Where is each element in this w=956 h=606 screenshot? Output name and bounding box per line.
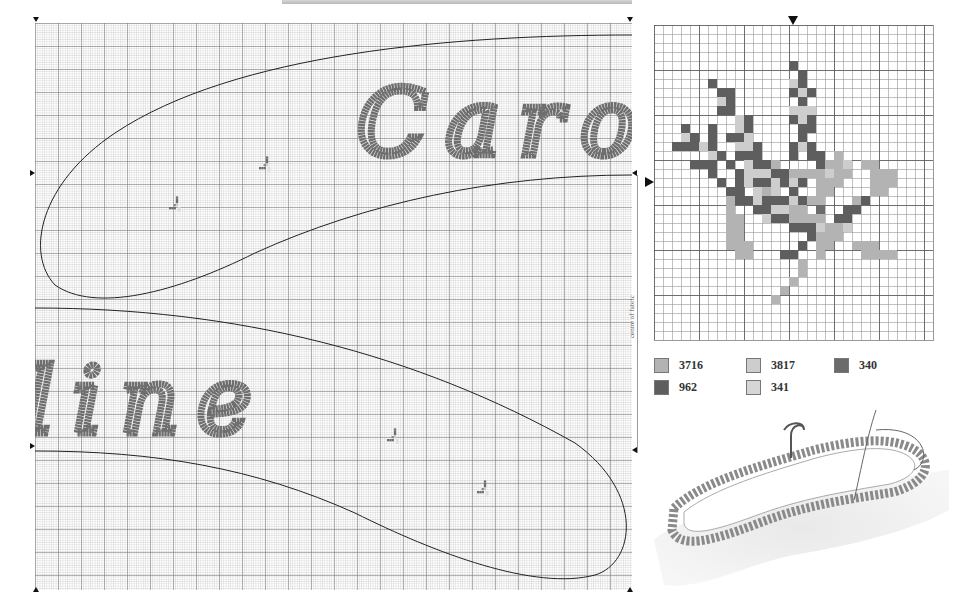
- stitch-cell: [780, 169, 789, 178]
- thread-code: 3716: [679, 358, 703, 373]
- stitch-cell: [744, 151, 753, 160]
- stitch-cell: [798, 142, 807, 151]
- stitch-cell: [888, 169, 897, 178]
- stitch-cell: [798, 79, 807, 88]
- stitch-cell: [807, 115, 816, 124]
- stitch-cell: [825, 223, 834, 232]
- stitch-cell: [807, 151, 816, 160]
- stitch-cell: [735, 169, 744, 178]
- stitch-cell: [789, 223, 798, 232]
- stitch-cell: [789, 106, 798, 115]
- stitch-cell: [771, 187, 780, 196]
- stitch-cell: [852, 196, 861, 205]
- stitch-cell: [726, 88, 735, 97]
- stitch-cell: [717, 151, 726, 160]
- stitch-cell: [789, 250, 798, 259]
- stitch-cell: [861, 160, 870, 169]
- stitch-cell: [798, 124, 807, 133]
- stitch-cell: [735, 115, 744, 124]
- stitch-cell: [870, 187, 879, 196]
- stitch-cell: [690, 133, 699, 142]
- stitch-cell: [744, 133, 753, 142]
- stitch-cell: [870, 241, 879, 250]
- stitch-cell: [789, 79, 798, 88]
- stitch-cell: [735, 232, 744, 241]
- centre-line: [637, 175, 638, 453]
- stitch-cell: [825, 160, 834, 169]
- stitch-cell: [798, 70, 807, 79]
- stitch-cell: [717, 106, 726, 115]
- stitch-cell: [834, 214, 843, 223]
- stitch-cell: [798, 178, 807, 187]
- stitch-cell: [735, 151, 744, 160]
- stitch-cell: [771, 196, 780, 205]
- stitch-cell: [726, 214, 735, 223]
- stitch-cell: [753, 205, 762, 214]
- arrow-marker-icon: [30, 443, 35, 449]
- stitch-cell: [744, 241, 753, 250]
- stitch-cell: [807, 88, 816, 97]
- stitch-cell: [708, 142, 717, 151]
- key-item: 962: [654, 380, 697, 395]
- stitch-cell: [690, 142, 699, 151]
- stitch-cell: [753, 187, 762, 196]
- stitch-cell: [879, 250, 888, 259]
- stitch-cell: [771, 205, 780, 214]
- stitch-cell: [798, 214, 807, 223]
- stitch-cell: [771, 160, 780, 169]
- stitch-cell: [789, 178, 798, 187]
- stitch-cell: [807, 106, 816, 115]
- stitch-cell: [861, 241, 870, 250]
- lettering-chart: Caroline: [35, 23, 632, 590]
- stitch-cell: [717, 88, 726, 97]
- stitch-cell: [735, 196, 744, 205]
- stitch-cell: [816, 178, 825, 187]
- motif-chart: [654, 25, 934, 341]
- stitch-cell: [753, 142, 762, 151]
- stitch-cell: [708, 79, 717, 88]
- stitch-cell: [744, 124, 753, 133]
- stitch-cell: [789, 88, 798, 97]
- key-item: 3716: [654, 358, 703, 373]
- stitch-cell: [708, 169, 717, 178]
- stitch-cell: [681, 142, 690, 151]
- centre-of-fabric-label: centre of fabric: [628, 295, 636, 338]
- stitch-cell: [834, 169, 843, 178]
- stitch-cell: [807, 214, 816, 223]
- stitch-cell: [753, 169, 762, 178]
- stitch-cell: [708, 133, 717, 142]
- stitch-cell: [834, 232, 843, 241]
- stitch-cell: [762, 178, 771, 187]
- stitch-cell: [726, 106, 735, 115]
- stitch-cell: [870, 160, 879, 169]
- stitch-cell: [789, 115, 798, 124]
- stitch-cell: [852, 205, 861, 214]
- stitch-cell: [843, 205, 852, 214]
- stitch-cell: [735, 124, 744, 133]
- arrow-marker-icon: [30, 170, 35, 176]
- hanger-illustration: [644, 400, 956, 600]
- stitch-cell: [825, 169, 834, 178]
- stitch-cell: [753, 151, 762, 160]
- stitch-cell: [771, 178, 780, 187]
- stitch-cell: [780, 250, 789, 259]
- stitch-cell: [780, 286, 789, 295]
- stitch-cell: [816, 250, 825, 259]
- stitch-cell: [735, 178, 744, 187]
- stitch-cell: [735, 250, 744, 259]
- stitch-cell: [798, 169, 807, 178]
- stitch-cell: [798, 268, 807, 277]
- color-swatch: [654, 358, 669, 373]
- stitch-cell: [843, 169, 852, 178]
- stitch-cell: [789, 187, 798, 196]
- stitch-cell: [816, 205, 825, 214]
- stitch-cell: [708, 151, 717, 160]
- stitch-cell: [744, 178, 753, 187]
- stitch-cell: [861, 196, 870, 205]
- thread-code: 3817: [771, 358, 795, 373]
- stitch-cell: [789, 196, 798, 205]
- stitch-cell: [735, 241, 744, 250]
- centre-arrow-icon: [645, 177, 654, 187]
- stitch-cell: [825, 187, 834, 196]
- stitch-cell: [708, 160, 717, 169]
